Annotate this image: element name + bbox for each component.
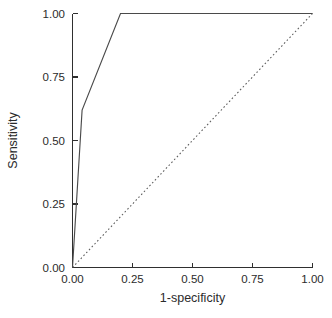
x-tick-label-0: 0.00 (61, 273, 83, 285)
x-axis-title: 1-specificity (160, 291, 226, 305)
roc-plot-svg: 0.00 0.25 0.50 0.75 1.00 0.00 0.25 0.50 … (0, 0, 332, 318)
y-axis-title: Sensitivity (6, 112, 20, 169)
y-tick-label-3: 0.75 (43, 71, 65, 83)
x-tick-label-4: 1.00 (301, 273, 323, 285)
y-tick-label-0: 0.00 (43, 262, 65, 274)
y-tick-label-2: 0.50 (43, 135, 65, 147)
y-tick-label-4: 1.00 (43, 8, 65, 20)
x-tick-label-2: 0.50 (181, 273, 203, 285)
y-tick-label-1: 0.25 (43, 198, 65, 210)
x-tick-label-1: 0.25 (121, 273, 143, 285)
x-tick-label-3: 0.75 (241, 273, 263, 285)
roc-chart-figure: 0.00 0.25 0.50 0.75 1.00 0.00 0.25 0.50 … (0, 0, 332, 318)
